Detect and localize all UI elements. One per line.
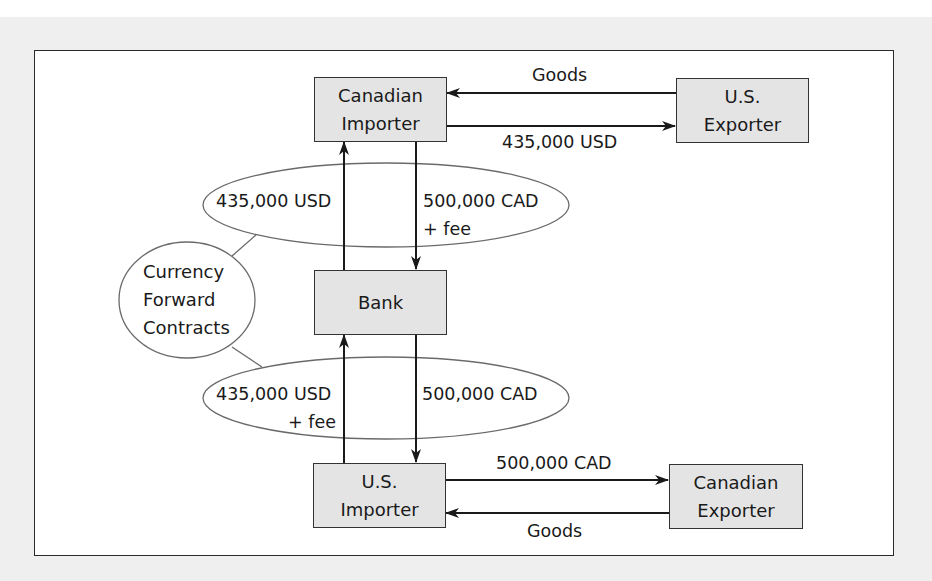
top-payment-label: 435,000 USD	[502, 131, 617, 153]
canadian-importer-line2: Importer	[341, 110, 419, 138]
us-importer-box: U.S. Importer	[313, 463, 446, 528]
cfc-line1: Currency	[143, 258, 230, 286]
lower-contract-cad-label: 500,000 CAD	[422, 383, 538, 405]
upper-contract-usd-label: 435,000 USD	[216, 190, 331, 212]
upper-contract-cad-label: 500,000 CAD	[423, 190, 539, 212]
lower-contract-fee-label: + fee	[288, 411, 336, 433]
us-importer-line1: U.S.	[361, 468, 397, 496]
canadian-importer-line1: Canadian	[338, 82, 423, 110]
cfc-line2: Forward	[143, 286, 230, 314]
us-importer-line2: Importer	[340, 496, 418, 524]
us-exporter-line1: U.S.	[724, 83, 760, 111]
bank-box: Bank	[314, 270, 447, 335]
currency-forward-contracts-text: Currency Forward Contracts	[143, 258, 230, 342]
cfc-line3: Contracts	[143, 314, 230, 342]
canadian-exporter-line2: Exporter	[697, 497, 774, 525]
bank-label: Bank	[358, 289, 403, 317]
top-goods-label: Goods	[532, 64, 587, 86]
connector-lower	[232, 347, 262, 367]
lower-contract-usd-label: 435,000 USD	[216, 383, 331, 405]
canadian-importer-box: Canadian Importer	[314, 77, 447, 142]
us-exporter-line2: Exporter	[704, 111, 781, 139]
canadian-exporter-line1: Canadian	[694, 469, 779, 497]
canadian-exporter-box: Canadian Exporter	[669, 464, 803, 529]
upper-contract-fee-label: + fee	[423, 218, 471, 240]
bottom-payment-label: 500,000 CAD	[496, 452, 612, 474]
us-exporter-box: U.S. Exporter	[676, 78, 809, 143]
connector-upper	[232, 235, 256, 256]
bottom-goods-label: Goods	[527, 520, 582, 542]
